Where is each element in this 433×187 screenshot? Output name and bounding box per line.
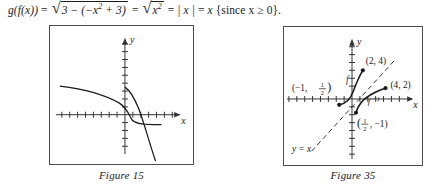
y-axis-label: y bbox=[129, 34, 135, 45]
x-axis-arrow-icon bbox=[174, 112, 180, 118]
equation-equals-4: = bbox=[198, 4, 205, 16]
y-equals-x-label: y = x bbox=[291, 144, 312, 154]
figure-15-plot: y x bbox=[50, 26, 193, 164]
equation-condition: {since x ≥ 0}. bbox=[216, 4, 281, 16]
x-axis-label: x bbox=[180, 115, 186, 126]
radical-expression-1: √ 3 − (−x2 + 3) bbox=[52, 1, 128, 16]
f-label: f bbox=[346, 75, 350, 85]
svg-text:(: ( bbox=[357, 116, 361, 130]
y-equals-x-dashed-line bbox=[312, 61, 395, 152]
equation-line: g(f(x)) = √ 3 − (−x2 + 3) = √ x2 = | x |… bbox=[8, 1, 428, 23]
f-endpoint-marker-left bbox=[337, 103, 341, 107]
point-label-neg1-half: (−1, 1 2 ) bbox=[292, 80, 331, 96]
figure-15-caption: Figure 15 bbox=[49, 169, 194, 181]
radicand-1-tail: + 3) bbox=[102, 4, 126, 16]
equation-equals-1: = bbox=[41, 4, 48, 16]
figure-35-panel: y x f f −1 (2, 4) (4, 2) (−1, 1 2 ) ( 1 … bbox=[283, 26, 423, 166]
svg-text:1: 1 bbox=[363, 117, 366, 124]
svg-text:2: 2 bbox=[321, 90, 324, 97]
equation-rhs-x: x bbox=[208, 4, 213, 16]
absolute-value-x: | x | bbox=[177, 4, 195, 16]
y-axis-label: y bbox=[356, 36, 362, 47]
f-inverse-endpoint-marker-upper bbox=[383, 86, 387, 90]
figure-35-plot: y x f f −1 (2, 4) (4, 2) (−1, 1 2 ) ( 1 … bbox=[284, 27, 422, 165]
svg-text:): ) bbox=[327, 80, 331, 94]
radical-expression-2: √ x2 bbox=[142, 1, 163, 16]
function-f-curve bbox=[339, 70, 363, 105]
exponent-2: 2 bbox=[158, 2, 162, 11]
shallow-decreasing-curve bbox=[60, 86, 162, 124]
equation-equals-2: = bbox=[132, 4, 139, 16]
x-axis-label: x bbox=[412, 99, 418, 110]
radicand-1: 3 − (−x2 + 3) bbox=[61, 1, 128, 16]
svg-text:(−1,: (−1, bbox=[292, 83, 307, 94]
figure-15-panel: y x bbox=[49, 25, 194, 165]
y-axis-arrow-icon bbox=[349, 39, 355, 46]
figure-35-caption: Figure 35 bbox=[283, 169, 423, 181]
f-inverse-endpoint-marker-lower bbox=[354, 111, 358, 115]
equation-lhs: g(f(x)) bbox=[8, 4, 38, 16]
equation-equals-3: = bbox=[168, 4, 175, 16]
svg-text:1: 1 bbox=[321, 81, 324, 88]
point-label-4-2: (4, 2) bbox=[390, 80, 410, 91]
svg-text:, −1): , −1) bbox=[370, 119, 388, 130]
radical-sign-icon-2: √ bbox=[142, 0, 151, 16]
f-inverse-label: f −1 bbox=[368, 95, 380, 106]
radical-sign-icon: √ bbox=[52, 0, 61, 16]
point-label-half-neg1: ( 1 2 , −1) bbox=[357, 116, 388, 132]
radicand-2: x2 bbox=[151, 1, 163, 16]
svg-text:2: 2 bbox=[363, 125, 366, 132]
point-label-2-4: (2, 4) bbox=[366, 56, 386, 67]
f-endpoint-marker-right bbox=[361, 68, 365, 72]
